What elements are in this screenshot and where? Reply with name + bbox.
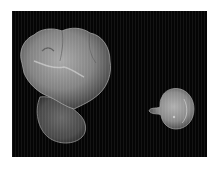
image-canvas [0,0,219,172]
specimen-photo [12,11,207,157]
scanline-texture [12,11,207,157]
specimen-illustration [12,11,207,157]
